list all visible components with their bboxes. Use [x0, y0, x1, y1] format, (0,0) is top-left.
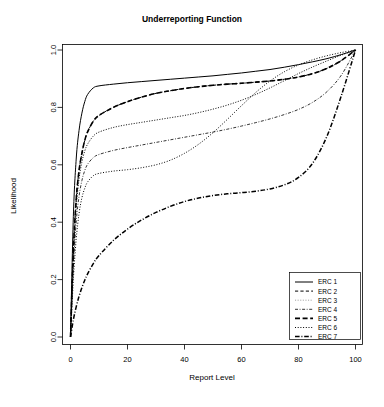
legend-items: ERC 1ERC 2ERC 3ERC 4ERC 5ERC 6ERC 7 [295, 278, 338, 340]
x-tick-label: 100 [349, 355, 362, 364]
x-tick-label: 20 [123, 355, 131, 364]
x-tick-label: 60 [237, 355, 245, 364]
chart-legend: ERC 1ERC 2ERC 3ERC 4ERC 5ERC 6ERC 7 [290, 273, 361, 341]
x-tick-label: 40 [180, 355, 188, 364]
y-tick-label: 0.4 [49, 217, 58, 227]
x-axis-label: Report Level [189, 373, 235, 382]
curve-erc-3 [71, 50, 356, 337]
y-tick-label: 0.8 [49, 102, 58, 112]
curve-erc-5 [71, 50, 356, 337]
legend-label-erc-6: ERC 6 [318, 324, 338, 331]
x-tick-label: 80 [294, 355, 302, 364]
y-tick-label: 0.0 [49, 332, 58, 342]
y-tick-label: 0.6 [49, 160, 58, 170]
legend-label-erc-7: ERC 7 [318, 333, 338, 340]
chart-title: Underreporting Function [142, 14, 242, 24]
x-tick-label: 0 [68, 355, 72, 364]
curve-erc-6 [71, 50, 356, 337]
y-axis-label: Likelihood [9, 178, 18, 214]
legend-label-erc-1: ERC 1 [318, 278, 338, 285]
legend-label-erc-3: ERC 3 [318, 297, 338, 304]
curve-erc-1 [71, 50, 356, 337]
data-curves [71, 50, 356, 337]
curve-erc-7 [71, 50, 356, 337]
legend-label-erc-4: ERC 4 [318, 306, 338, 313]
underreporting-function-chart: Underreporting Function 020406080100 0.0… [0, 0, 384, 407]
curve-erc-4 [71, 50, 356, 337]
legend-label-erc-5: ERC 5 [318, 315, 338, 322]
y-axis-ticks: 0.00.20.40.60.81.0 [49, 45, 62, 342]
x-axis-ticks: 020406080100 [68, 345, 361, 364]
y-tick-label: 1.0 [49, 45, 58, 55]
legend-label-erc-2: ERC 2 [318, 288, 338, 295]
y-tick-label: 0.2 [49, 274, 58, 284]
chart-container: Underreporting Function 020406080100 0.0… [0, 0, 384, 407]
curve-erc-2 [71, 50, 356, 337]
